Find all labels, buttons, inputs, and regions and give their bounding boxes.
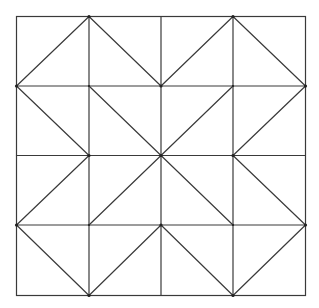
quilt-grid-diagram (0, 0, 319, 308)
vertex-dot (232, 224, 234, 226)
vertex-dot (304, 223, 307, 226)
cell-diagonal-rising (233, 225, 306, 296)
cell-diagonal-rising (161, 86, 233, 156)
vertex-dot (159, 223, 162, 226)
cell-diagonal-falling (17, 86, 90, 156)
vertex-dot (88, 85, 90, 87)
vertex-dot (159, 154, 162, 157)
vertex-dot (15, 223, 18, 226)
cell-diagonal-rising (89, 225, 161, 296)
cell-diagonal-falling (89, 86, 161, 156)
vertex-dot (87, 294, 90, 297)
vertex-dot (87, 154, 90, 157)
vertex-dot (231, 294, 234, 297)
cell-diagonal-rising (89, 156, 161, 226)
cell-diagonal-falling (233, 17, 306, 87)
vertex-dot (15, 84, 18, 87)
vertex-dot (231, 154, 234, 157)
vertex-dot (304, 84, 307, 87)
cell-diagonal-rising (17, 156, 90, 226)
cell-diagonal-falling (161, 156, 233, 226)
vertex-dot (87, 15, 90, 18)
cell-diagonal-falling (17, 225, 90, 296)
cell-diagonal-rising (233, 86, 306, 156)
vertex-dot (159, 84, 162, 87)
vertex-dot (232, 85, 234, 87)
cell-diagonal-falling (161, 225, 233, 296)
vertex-dot (231, 15, 234, 18)
cell-diagonal-rising (161, 17, 233, 87)
vertex-dot (88, 224, 90, 226)
cell-diagonal-falling (233, 156, 306, 226)
cell-diagonal-falling (89, 17, 161, 87)
cell-diagonal-rising (17, 17, 90, 87)
